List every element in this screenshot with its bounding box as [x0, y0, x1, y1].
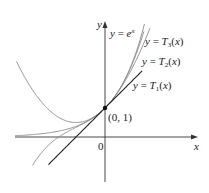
curves — [15, 24, 150, 165]
point-0-1 — [103, 106, 107, 110]
point-label: (0, 1) — [108, 111, 132, 124]
x-axis-label: x — [193, 140, 199, 152]
label-T3: y = T3(x) — [144, 35, 184, 49]
label-T1: y = T1(x) — [132, 79, 172, 93]
x-axis-arrow-icon — [191, 135, 198, 140]
y-axis-label: y — [96, 18, 102, 30]
curve-T2 — [17, 28, 150, 122]
y-axis-arrow-icon — [103, 21, 108, 28]
curve-T3 — [33, 31, 144, 165]
label-exp: y = ex — [109, 27, 136, 39]
taylor-polynomials-figure: y x 0 (0, 1) y = ex y = T3(x) y = T2(x) … — [0, 0, 209, 193]
label-T2: y = T2(x) — [141, 55, 181, 69]
origin-label: 0 — [98, 140, 104, 152]
